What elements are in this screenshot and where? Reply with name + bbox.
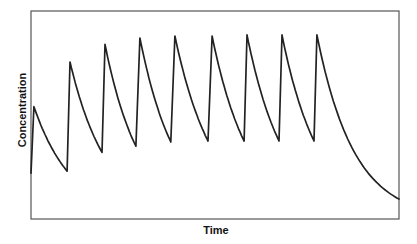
concentration-line <box>31 35 399 199</box>
y-axis-label: Concentration <box>16 73 28 148</box>
chart <box>0 0 417 244</box>
x-axis-label: Time <box>203 224 228 236</box>
